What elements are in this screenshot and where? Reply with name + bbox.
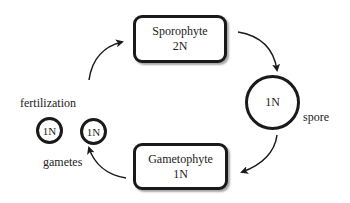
gametes-label: gametes xyxy=(43,155,82,170)
gamete-2-ploidy: 1N xyxy=(87,126,100,138)
arrow-gametophyte-to-gametes xyxy=(89,148,126,178)
gametophyte-name: Gametophyte xyxy=(148,152,213,167)
sporophyte-ploidy: 2N xyxy=(173,39,188,54)
gametophyte-ploidy: 1N xyxy=(173,167,188,182)
spore-ploidy: 1N xyxy=(265,95,280,110)
arrow-sporophyte-to-spore xyxy=(238,32,277,70)
sporophyte-name: Sporophyte xyxy=(152,24,207,39)
fertilization-label: fertilization xyxy=(20,96,76,111)
arrow-fertilization-to-sporophyte xyxy=(89,42,122,80)
gamete-1-ploidy: 1N xyxy=(43,125,56,137)
gamete-circle-2: 1N xyxy=(80,118,107,145)
gametophyte-box: Gametophyte 1N xyxy=(133,143,228,190)
spore-label: spore xyxy=(303,110,329,125)
gamete-circle-1: 1N xyxy=(36,117,63,144)
spore-circle: 1N xyxy=(245,75,300,130)
sporophyte-box: Sporophyte 2N xyxy=(133,15,227,63)
arrow-spore-to-gametophyte xyxy=(242,135,277,172)
